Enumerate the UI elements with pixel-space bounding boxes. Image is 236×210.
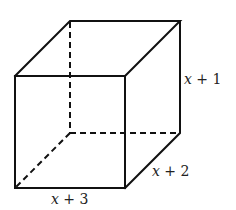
box-diagram: x + 1 x + 2 x + 3 [0, 0, 236, 210]
height-label: x + 1 [184, 71, 221, 87]
hidden-depth-edge [15, 133, 70, 188]
depth-label: x + 2 [152, 163, 189, 179]
width-label: x + 3 [51, 191, 88, 207]
top-face-edges [15, 21, 180, 76]
